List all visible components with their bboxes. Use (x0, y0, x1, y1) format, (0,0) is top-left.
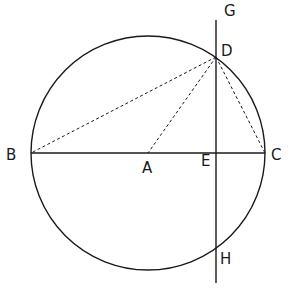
geometry-diagram: B A E C D G H (0, 0, 289, 288)
dashed-dc (216, 57, 265, 153)
dashed-da (148, 57, 216, 153)
dashed-db (31, 57, 216, 153)
label-g: G (224, 2, 236, 20)
label-d: D (221, 42, 233, 60)
label-c: C (271, 146, 281, 164)
label-b: B (6, 146, 16, 164)
label-e: E (201, 152, 210, 170)
label-a: A (142, 159, 153, 177)
label-h: H (220, 250, 231, 268)
